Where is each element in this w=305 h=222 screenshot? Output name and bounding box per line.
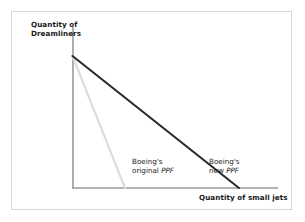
new-ppf-label-line2: new PPF [209,167,240,176]
y-axis-title: Quantity of Dreamliners [31,21,81,38]
figure-container: Quantity of Dreamliners Quantity of smal… [0,0,305,222]
new-ppf-label-prefix: new [209,166,226,175]
original-ppf-label-abbr: PPF [161,166,174,175]
original-ppf-label: Boeing's original PPF [132,158,174,176]
x-axis-title: Quantity of small jets [199,194,287,203]
original-ppf-label-line2: original PPF [132,167,174,176]
new-ppf-label: Boeing's new PPF [209,158,240,176]
original-ppf-label-prefix: original [132,166,161,175]
new-ppf-label-abbr: PPF [226,166,239,175]
